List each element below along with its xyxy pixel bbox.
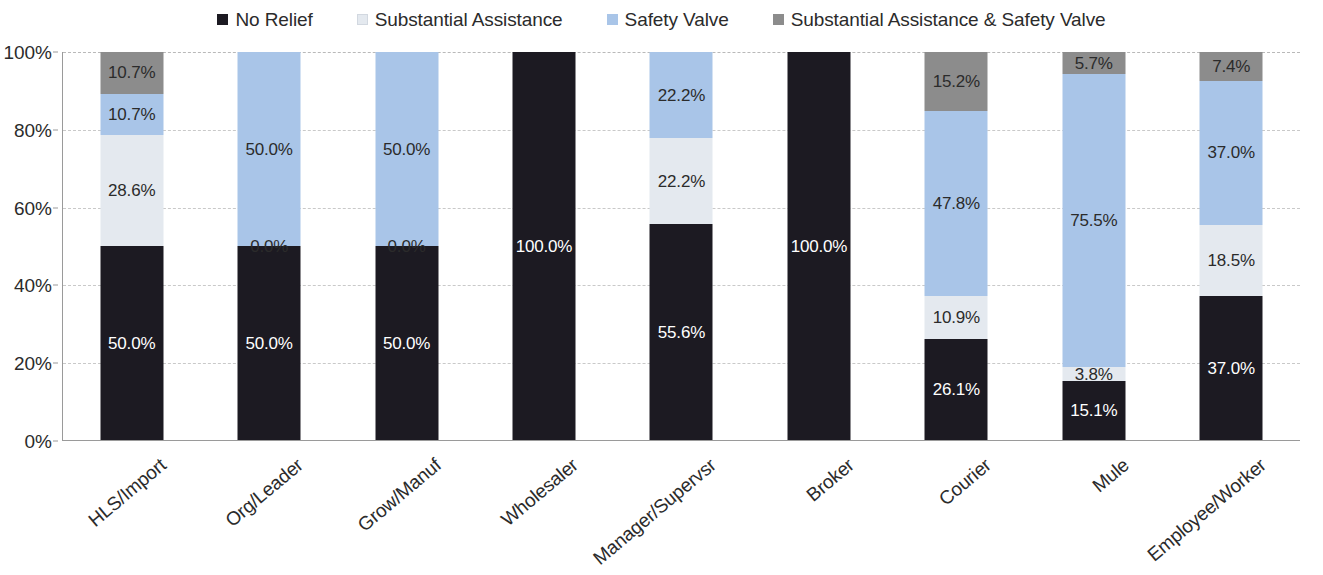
bar-segment-value-label: 37.0% bbox=[1208, 360, 1255, 377]
y-axis-tick-label: 20% bbox=[14, 354, 52, 373]
y-axis-tick-label: 0% bbox=[25, 432, 52, 451]
bar-segment[interactable]: 3.8% bbox=[1062, 367, 1125, 382]
y-axis: 100%80%60%40%20%0% bbox=[0, 52, 58, 441]
bar-segment[interactable]: 26.1% bbox=[925, 339, 988, 440]
bar-segment-value-label: 10.7% bbox=[108, 64, 155, 81]
y-axis-tick-mark bbox=[53, 207, 58, 208]
bar-segment[interactable]: 10.9% bbox=[925, 296, 988, 338]
bar-slot: 100.0% bbox=[750, 52, 887, 440]
bar-segment[interactable]: 7.4% bbox=[1200, 52, 1263, 81]
bar-segment-value-label: 50.0% bbox=[108, 335, 155, 352]
bar-segment[interactable]: 100.0% bbox=[787, 52, 850, 440]
bar-slot: 50.0%0.0%50.0% bbox=[200, 52, 337, 440]
bar-segment-value-label: 28.6% bbox=[108, 182, 155, 199]
y-axis-tick-label: 100% bbox=[3, 43, 52, 62]
bar-segment[interactable]: 37.0% bbox=[1200, 296, 1263, 440]
bar-segment[interactable]: 18.5% bbox=[1200, 225, 1263, 297]
legend-item[interactable]: Substantial Assistance bbox=[357, 10, 563, 29]
bar-segment-value-label: 10.9% bbox=[933, 309, 980, 326]
bar-segment-value-label: 55.6% bbox=[658, 324, 705, 341]
bar-segment[interactable]: 37.0% bbox=[1200, 81, 1263, 225]
bar-segment-value-label: 26.1% bbox=[933, 381, 980, 398]
stacked-bar[interactable]: 50.0%28.6%10.7%10.7% bbox=[100, 52, 163, 440]
stacked-bar[interactable]: 15.1%3.8%75.5%5.7% bbox=[1062, 52, 1125, 440]
bar-segment-value-label: 0.0% bbox=[250, 238, 288, 255]
bar-segment[interactable]: 28.6% bbox=[100, 135, 163, 246]
legend-swatch-icon bbox=[773, 14, 784, 25]
stacked-bar[interactable]: 50.0%0.0%50.0% bbox=[238, 52, 301, 440]
bar-segment[interactable]: 10.7% bbox=[100, 94, 163, 136]
bar-segment[interactable]: 22.2% bbox=[650, 138, 713, 224]
bar-segment[interactable]: 100.0% bbox=[513, 52, 576, 440]
x-axis-tick-label: Broker bbox=[803, 455, 857, 505]
bar-segment-value-label: 37.0% bbox=[1208, 144, 1255, 161]
bar-slot: 55.6%22.2%22.2% bbox=[613, 52, 750, 440]
bar-segment-value-label: 15.2% bbox=[933, 73, 980, 90]
bar-segment-value-label: 18.5% bbox=[1208, 252, 1255, 269]
y-axis-tick-mark bbox=[53, 52, 58, 53]
bar-slot: 100.0% bbox=[475, 52, 612, 440]
bar-slot: 15.1%3.8%75.5%5.7% bbox=[1025, 52, 1162, 440]
bar-segment[interactable]: 50.0% bbox=[238, 52, 301, 246]
y-axis-tick-mark bbox=[53, 285, 58, 286]
plot-area: 50.0%28.6%10.7%10.7%50.0%0.0%50.0%50.0%0… bbox=[62, 52, 1300, 441]
x-axis-tick-label: Courier bbox=[935, 455, 994, 509]
bar-segment-value-label: 50.0% bbox=[383, 335, 430, 352]
bar-segment[interactable]: 75.5% bbox=[1062, 74, 1125, 367]
legend-label: Substantial Assistance bbox=[375, 10, 563, 29]
legend-label: Substantial Assistance & Safety Valve bbox=[791, 10, 1106, 29]
x-axis-tick-label: Employee/Worker bbox=[1144, 455, 1269, 564]
bar-segment[interactable]: 50.0% bbox=[375, 246, 438, 440]
bar-slot: 50.0%0.0%50.0% bbox=[338, 52, 475, 440]
stacked-bar[interactable]: 50.0%0.0%50.0% bbox=[375, 52, 438, 440]
bar-segment-value-label: 50.0% bbox=[246, 335, 293, 352]
bar-segment[interactable]: 50.0% bbox=[375, 52, 438, 246]
stacked-bar[interactable]: 26.1%10.9%47.8%15.2% bbox=[925, 52, 988, 440]
stacked-bar[interactable]: 100.0% bbox=[513, 52, 576, 440]
bar-segment-value-label: 3.8% bbox=[1075, 366, 1113, 383]
legend-swatch-icon bbox=[357, 14, 368, 25]
bar-segment-value-label: 100.0% bbox=[791, 238, 847, 255]
x-axis-tick-label: Mule bbox=[1089, 455, 1132, 496]
y-axis-tick-label: 80% bbox=[14, 120, 52, 139]
bar-segment[interactable]: 10.7% bbox=[100, 52, 163, 94]
legend-item[interactable]: Safety Valve bbox=[607, 10, 729, 29]
bar-segment-value-label: 50.0% bbox=[246, 141, 293, 158]
stacked-bar[interactable]: 37.0%18.5%37.0%7.4% bbox=[1200, 52, 1263, 440]
bar-segment-value-label: 5.7% bbox=[1075, 55, 1113, 72]
x-axis-tick-label: Manager/Supervsr bbox=[590, 455, 720, 568]
bar-segment-value-label: 10.7% bbox=[108, 106, 155, 123]
x-axis-tick-label: Wholesaler bbox=[498, 455, 581, 529]
bar-segment[interactable]: 5.7% bbox=[1062, 52, 1125, 74]
bar-segment-value-label: 50.0% bbox=[383, 141, 430, 158]
bar-series-container: 50.0%28.6%10.7%10.7%50.0%0.0%50.0%50.0%0… bbox=[63, 52, 1300, 440]
bar-slot: 50.0%28.6%10.7%10.7% bbox=[63, 52, 200, 440]
legend-swatch-icon bbox=[607, 14, 618, 25]
bar-segment[interactable]: 50.0% bbox=[100, 246, 163, 440]
legend-swatch-icon bbox=[217, 14, 228, 25]
bar-segment-value-label: 75.5% bbox=[1070, 212, 1117, 229]
bar-slot: 26.1%10.9%47.8%15.2% bbox=[888, 52, 1025, 440]
y-axis-tick-mark bbox=[53, 363, 58, 364]
x-axis-tick-label: Org/Leader bbox=[222, 455, 306, 530]
bar-segment[interactable]: 55.6% bbox=[650, 224, 713, 440]
y-axis-tick-mark bbox=[53, 441, 58, 442]
bar-segment-value-label: 100.0% bbox=[516, 238, 572, 255]
legend-label: No Relief bbox=[235, 10, 312, 29]
bar-segment-value-label: 47.8% bbox=[933, 195, 980, 212]
legend-item[interactable]: Substantial Assistance & Safety Valve bbox=[773, 10, 1106, 29]
bar-segment-value-label: 22.2% bbox=[658, 173, 705, 190]
stacked-bar[interactable]: 100.0% bbox=[787, 52, 850, 440]
y-axis-tick-mark bbox=[53, 129, 58, 130]
y-axis-tick-label: 60% bbox=[14, 198, 52, 217]
bar-segment-value-label: 0.0% bbox=[388, 238, 426, 255]
bar-segment[interactable]: 15.2% bbox=[925, 52, 988, 111]
x-axis: HLS/ImportOrg/LeaderGrow/ManufWholesaler… bbox=[62, 441, 1300, 575]
x-axis-tick-label: Grow/Manuf bbox=[354, 455, 444, 535]
legend-item[interactable]: No Relief bbox=[217, 10, 312, 29]
bar-segment[interactable]: 22.2% bbox=[650, 52, 713, 138]
bar-segment[interactable]: 15.1% bbox=[1062, 381, 1125, 440]
bar-segment[interactable]: 50.0% bbox=[238, 246, 301, 440]
bar-segment[interactable]: 47.8% bbox=[925, 111, 988, 296]
stacked-bar[interactable]: 55.6%22.2%22.2% bbox=[650, 52, 713, 440]
